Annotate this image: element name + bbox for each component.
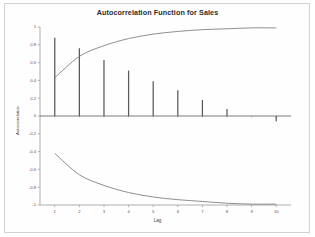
lower-confidence-limit-curve [55,153,276,204]
acf-bars-group [55,38,276,122]
plot-area [0,0,315,237]
chart-figure: Autocorrelation Function for Sales Autoc… [0,0,315,237]
upper-confidence-limit-curve [55,28,276,78]
axes-group [38,27,291,207]
